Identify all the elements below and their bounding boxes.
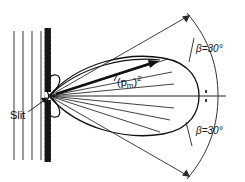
intensity-label-prefix: (p (117, 76, 127, 88)
intensity-label-superscript: 2 (137, 74, 141, 83)
beta-bottom-text: β=30° (196, 125, 223, 136)
beta-leader-lines (186, 38, 194, 146)
beta-top-leader (189, 38, 194, 62)
diffraction-diagram (0, 0, 245, 182)
beta-bottom-leader (186, 122, 192, 146)
incoming-wavefronts (14, 31, 41, 160)
ray (49, 96, 170, 120)
beta-lower-boundary (49, 96, 190, 177)
beta-top-label: β=30° (196, 44, 223, 54)
beta-bottom-label: β=30° (196, 126, 223, 136)
intensity-arrowhead (148, 60, 159, 68)
diffraction-figure: Slit β=30° β=30° (pm)2 (0, 0, 245, 182)
slit-label: Slit (10, 110, 25, 121)
intensity-label: (pm)2 (117, 75, 142, 90)
beta-top-text: β=30° (196, 43, 223, 54)
